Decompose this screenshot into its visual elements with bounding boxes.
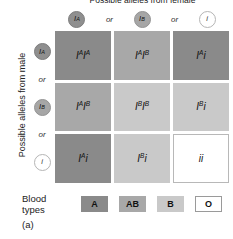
punnett-cell: IAIB [114, 31, 170, 80]
row-separator-0: or [38, 73, 45, 86]
or-label: or [38, 130, 45, 139]
column-header-2: i [185, 11, 229, 28]
legend-swatch-O: O [195, 196, 222, 212]
A-allele-token: IA [34, 43, 51, 60]
legend-title: Blood types [22, 193, 68, 215]
column-headers: IA or IB or i [55, 9, 229, 29]
column-header-0: IA [55, 11, 99, 28]
genotype-4: IBIB [135, 101, 149, 112]
row-header-1: IB [34, 86, 51, 128]
row-header-0: IA [34, 31, 51, 73]
legend: Blood types A AB B O [22, 193, 233, 215]
or-label: or [38, 75, 45, 84]
legend-swatch-A: A [81, 196, 108, 212]
A-allele-token: IA [68, 11, 85, 28]
punnett-cell: IBIB [114, 83, 170, 132]
punnett-grid: IAIA IAIB IAi IAIB IBIB IBi IAi IBi ii [55, 31, 229, 183]
top-axis-title: Possible alleles from female [55, 0, 230, 5]
or-label: or [106, 15, 113, 24]
column-separator-0: or [99, 15, 120, 24]
row-separator-1: or [38, 128, 45, 141]
row-header-2: i [34, 141, 51, 183]
genotype-8: ii [199, 153, 203, 164]
genotype-5: IBi [196, 101, 205, 112]
genotype-3: IAIB [76, 101, 90, 112]
punnett-cell: IAi [173, 31, 229, 80]
column-separator-1: or [164, 15, 185, 24]
genotype-6: IAi [78, 153, 87, 164]
genotype-2: IAi [196, 50, 205, 61]
genotype-0: IAIA [76, 50, 90, 61]
genotype-7: IBi [137, 153, 146, 164]
punnett-cell: IBi [114, 134, 170, 183]
punnett-cell: IBi [173, 83, 229, 132]
legend-swatch-AB: AB [119, 196, 146, 212]
i-allele-token: i [34, 154, 51, 171]
punnett-cell: ii [173, 134, 229, 183]
panel-label: (a) [22, 219, 34, 230]
B-allele-token: IB [134, 11, 151, 28]
left-axis-title: Possible alleles from male [17, 25, 27, 185]
legend-swatch-B: B [157, 196, 184, 212]
genotype-1: IAIB [135, 50, 149, 61]
row-headers: IA or IB or i [30, 31, 54, 183]
punnett-cell: IAIB [55, 83, 111, 132]
punnett-cell: IAi [55, 134, 111, 183]
column-header-1: IB [120, 11, 164, 28]
punnett-square-figure: Possible alleles from female IA or IB or… [0, 0, 233, 239]
B-allele-token: IB [34, 99, 51, 116]
or-label: or [171, 15, 178, 24]
i-allele-token: i [199, 11, 216, 28]
punnett-cell: IAIA [55, 31, 111, 80]
